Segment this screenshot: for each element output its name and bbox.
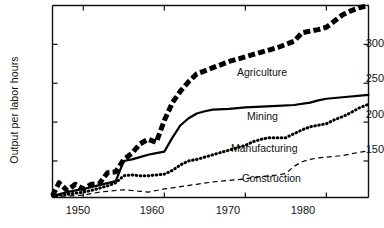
chart-container: Output per labor hours 300 250 200 150 1… — [0, 0, 384, 228]
series-line-construction — [53, 151, 369, 197]
plot-area — [0, 0, 384, 228]
series-group — [53, 6, 369, 197]
axes-group — [53, 6, 369, 198]
